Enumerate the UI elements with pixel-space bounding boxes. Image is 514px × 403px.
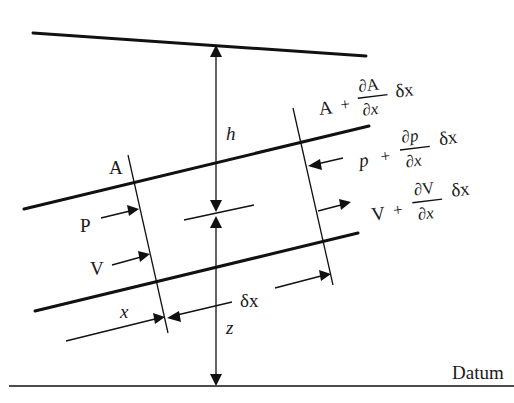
outlet-velocity-numerator: ∂V [413, 178, 437, 199]
arrowhead-up-icon [210, 216, 222, 228]
left-cross-section [128, 155, 168, 333]
outlet-velocity-base: V [370, 202, 386, 225]
position-dimension-arrow [66, 313, 165, 341]
elevation-dimension [210, 216, 222, 386]
arrowhead-left-icon [308, 159, 322, 170]
inlet-velocity-arrow [112, 251, 150, 265]
outlet-pressure-numerator: ∂p [400, 126, 419, 147]
outlet-area-denominator: ∂x [361, 99, 380, 120]
inlet-pressure-arrow [101, 205, 139, 218]
fraction-bar [400, 146, 430, 150]
right-cross-section [293, 108, 333, 285]
outlet-pressure-suffix: δx [438, 126, 459, 149]
element-length-arrow-left [167, 302, 232, 322]
inlet-pressure-label: P [80, 215, 91, 236]
arrowhead-right-icon [153, 313, 165, 324]
outlet-velocity-suffix: δx [450, 178, 471, 201]
outlet-area-base: A [317, 96, 333, 119]
outlet-velocity-arrow [318, 199, 351, 211]
outlet-pressure-base: p [356, 149, 370, 171]
position-label: x [119, 301, 129, 322]
lower-boundary-line [35, 233, 358, 311]
arrowhead-right-icon [127, 205, 139, 216]
elevation-label: z [225, 317, 234, 338]
outlet-pressure-denominator: ∂x [404, 150, 423, 171]
control-volume-diagram: h z Datum A P V x δx A + ∂A ∂x δx p + ∂p… [0, 0, 514, 403]
outlet-area-expression: A + ∂A ∂x δx [316, 70, 417, 124]
arrowhead-down-icon [210, 374, 222, 386]
outlet-velocity-expression: V + ∂V ∂x δx [368, 174, 474, 230]
inlet-velocity-label: V [90, 258, 104, 279]
head-label: h [226, 123, 236, 144]
fraction-bar [412, 199, 442, 203]
outlet-area-suffix: δx [394, 78, 415, 101]
inlet-area-label: A [109, 157, 123, 178]
outlet-pressure-expression: p + ∂p ∂x δx [354, 121, 462, 177]
head-dimension [210, 45, 222, 212]
arrowhead-right-icon [138, 251, 150, 262]
element-length-label: δx [240, 290, 259, 311]
datum-label: Datum [452, 362, 504, 383]
arrowhead-right-icon [319, 270, 331, 281]
centerline [184, 205, 254, 220]
element-length-arrow-right [275, 270, 331, 288]
outlet-pressure-arrow [308, 158, 343, 170]
arrowhead-down-icon [210, 200, 222, 212]
energy-line [33, 33, 366, 56]
arrowhead-left-icon [167, 311, 181, 322]
arrowhead-right-icon [339, 199, 351, 210]
outlet-velocity-op: + [392, 200, 404, 220]
outlet-pressure-op: + [380, 146, 392, 166]
outlet-area-op: + [339, 94, 351, 114]
outlet-velocity-denominator: ∂x [417, 203, 436, 224]
outlet-area-numerator: ∂A [357, 75, 381, 96]
